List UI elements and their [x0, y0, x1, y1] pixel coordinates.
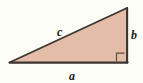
label-horizontal-leg-a: a — [69, 70, 75, 82]
label-vertical-leg-b: b — [131, 29, 137, 41]
label-hypotenuse-c: c — [57, 26, 62, 38]
right-triangle-figure: c b a — [0, 0, 143, 83]
